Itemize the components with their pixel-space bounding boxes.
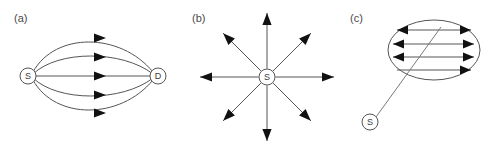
- panel-c: (c) S: [350, 12, 480, 130]
- node-source-c: S: [362, 114, 378, 130]
- node-label: S: [367, 117, 373, 127]
- arrowhead-icon: [94, 33, 106, 42]
- arrowhead-icon: [262, 129, 271, 141]
- arrowhead-icon: [322, 72, 334, 81]
- arrowhead-icon: [262, 13, 271, 25]
- arrowhead-icon: [94, 108, 106, 117]
- node-label: S: [264, 72, 270, 82]
- panel-c-label: (c): [350, 12, 363, 24]
- routing-strategies-diagram: (a) S D: [0, 0, 494, 153]
- flow-path-2: [33, 56, 153, 74]
- panel-a: (a) S D: [14, 12, 166, 118]
- panel-a-arrowheads: [94, 33, 106, 117]
- panel-c-flows: [393, 26, 474, 75]
- arrowhead-icon: [397, 26, 408, 35]
- arrowhead-icon: [94, 71, 106, 80]
- panel-a-paths: [33, 42, 153, 110]
- arrowhead-icon: [463, 53, 474, 62]
- arrowhead-icon: [460, 66, 471, 75]
- panel-a-label: (a): [14, 12, 27, 24]
- panel-b: (b) S: [192, 12, 334, 141]
- arrowhead-icon: [94, 52, 106, 61]
- arrowhead-icon: [460, 26, 471, 35]
- node-destination-a: D: [150, 68, 166, 84]
- node-source-b: S: [259, 69, 275, 85]
- node-source-a: S: [20, 68, 36, 84]
- flow-path-5: [33, 80, 153, 110]
- source-to-zone-link: [376, 27, 441, 117]
- arrowhead-icon: [393, 53, 404, 62]
- arrowhead-icon: [94, 90, 106, 99]
- flow-path-4: [33, 78, 153, 96]
- flow-path-1: [33, 42, 153, 72]
- arrowhead-icon: [463, 40, 474, 49]
- arrowhead-icon: [200, 72, 212, 81]
- panel-b-label: (b): [192, 12, 205, 24]
- figure-container: (a) S D: [0, 0, 494, 153]
- node-label: S: [25, 71, 31, 81]
- node-label: D: [155, 71, 162, 81]
- arrowhead-icon: [393, 40, 404, 49]
